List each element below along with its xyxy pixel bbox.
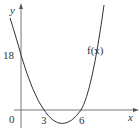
tick-label-6: 6 [79, 114, 85, 126]
y-axis-arrow-icon [19, 3, 23, 9]
curve-f-x [10, 5, 104, 124]
function-graph: y x 0 3 6 18 f(x) [0, 0, 140, 131]
x-axis-arrow-icon [133, 108, 139, 112]
x-axis-label: x [127, 111, 133, 123]
y-axis-label: y [9, 4, 15, 16]
tick-label-3: 3 [41, 114, 47, 126]
y-intercept-label: 18 [3, 49, 15, 61]
origin-label: 0 [9, 113, 15, 125]
curve-label: f(x) [87, 44, 104, 57]
